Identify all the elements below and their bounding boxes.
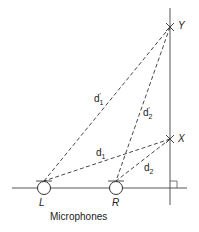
label-d1: d1 [96,148,105,160]
label-d1-prime: d1' [94,92,101,106]
label-y: Y [178,21,185,31]
label-d2: d2 [144,163,153,175]
microphone-l-icon [36,181,52,195]
label-d2-prime: d2' [143,106,150,120]
label-r: R [112,198,119,208]
line-d1-prime [44,27,170,181]
caption-microphones: Microphones [50,212,107,222]
label-x: X [178,134,185,144]
diagram-lines [0,0,199,232]
right-angle-mark [170,181,177,188]
line-d2 [116,139,170,181]
line-d2-prime [116,27,170,181]
microphone-distance-diagram: Y X L R d1' d2' d1 d2 Microphones [0,0,199,232]
microphone-r-icon [108,181,124,195]
label-l: L [39,198,45,208]
